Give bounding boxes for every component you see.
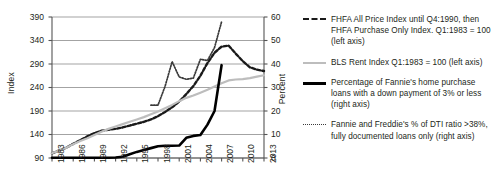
chart-svg [0, 0, 300, 195]
gray-line-swatch [303, 62, 326, 68]
x-axis-tick-label: 2001 [183, 144, 193, 163]
legend-entry-label: BLS Rent Index Q1:1983 = 100 (left axis) [331, 58, 483, 67]
legend-entry-label: Percentage of Fannie's home purchase loa… [331, 78, 481, 109]
left-axis-tick-label: 340 [18, 35, 44, 45]
legend-entry-fhfa-price-index[interactable]: FHFA All Price Index until Q4:1990, then… [303, 14, 497, 48]
legend-entry-fannie-freddie-dti-over-38[interactable]: Fannie and Freddie's % of DTI ratio >38%… [303, 119, 497, 141]
left-axis-tick-label: 140 [18, 129, 44, 139]
right-axis-tick-label: 40 [271, 59, 297, 69]
right-axis-tick-label: 60 [271, 12, 297, 22]
legend-entry-fannie-low-downpayment-share[interactable]: Percentage of Fannie's home purchase loa… [303, 77, 497, 111]
x-axis-tick-label: 2004 [204, 144, 214, 163]
dotted-line-swatch [303, 124, 326, 129]
right-axis-tick-label: 30 [271, 82, 297, 92]
x-axis-tick-label: 1986 [77, 144, 87, 163]
x-axis-tick-label: 2013 [268, 144, 278, 163]
black-line-swatch [303, 82, 326, 89]
left-axis-tick-label: 290 [18, 59, 44, 69]
series-line-fhfa-price-index [52, 46, 264, 154]
series-line-bls-rent-index [52, 75, 264, 153]
legend-entry-label: Fannie and Freddie's % of DTI ratio >38%… [331, 120, 488, 140]
right-axis-tick-label: 50 [271, 35, 297, 45]
x-axis-tick-label: 1983 [56, 144, 66, 163]
left-axis-tick-label: 90 [18, 153, 44, 163]
chart-legend: FHFA All Price Index until Q4:1990, then… [303, 14, 497, 151]
left-axis-title: Index [6, 60, 16, 106]
right-axis-tick-label: 10 [271, 129, 297, 139]
chart-figure: Index Percent 90140190240290340390 01020… [0, 0, 497, 195]
left-axis-tick-label: 390 [18, 12, 44, 22]
legend-entry-label: FHFA All Price Index until Q4:1990, then… [331, 15, 491, 46]
dashed-line-swatch [303, 18, 326, 24]
x-axis-tick-label: 1992 [119, 144, 129, 163]
right-axis-tick-label: 20 [271, 106, 297, 116]
legend-entry-bls-rent-index[interactable]: BLS Rent Index Q1:1983 = 100 (left axis) [303, 57, 497, 68]
x-axis-tick-label: 2007 [225, 144, 235, 163]
x-axis-tick-label: 1989 [98, 144, 108, 163]
x-axis-tick-label: 2010 [246, 144, 256, 163]
x-axis-tick-label: 1998 [162, 144, 172, 163]
left-axis-tick-label: 240 [18, 82, 44, 92]
left-axis-tick-label: 190 [18, 106, 44, 116]
x-axis-tick-label: 1995 [140, 144, 150, 163]
series-line-fannie-freddie-dti-over-38 [151, 22, 222, 105]
chart-plot-area: Index Percent 90140190240290340390 01020… [0, 0, 300, 195]
